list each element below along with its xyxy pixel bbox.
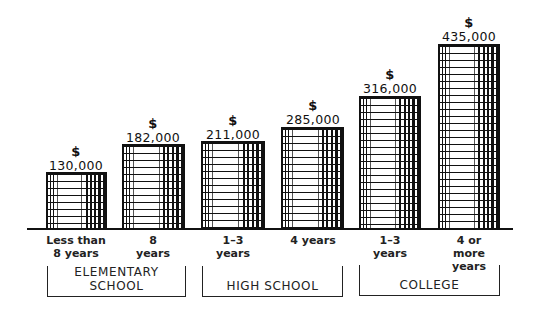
group-bracket-high-school: HIGH SCHOOL (202, 266, 343, 297)
bar-value: 285,000 (286, 112, 340, 127)
group-label-line: ELEMENTARY (48, 265, 185, 279)
bar-value: 435,000 (442, 29, 496, 44)
bar-less-than-8-years (46, 172, 107, 229)
category-label: 4 years (273, 234, 353, 247)
group-label: ELEMENTARY SCHOOL (48, 265, 185, 293)
category-label-line: years (350, 247, 430, 260)
category-label-line: 4 or (429, 234, 509, 247)
bar-value-label: $ 211,000 (193, 114, 273, 142)
bar-value: 211,000 (206, 127, 260, 142)
category-label-line: 1–3 (350, 234, 430, 247)
category-label-line: 8 (113, 234, 193, 247)
category-label: 1–3 years (193, 234, 273, 260)
bar-8-years (122, 144, 185, 229)
group-label: COLLEGE (360, 278, 499, 292)
bar-value: 182,000 (126, 130, 180, 145)
category-label-line: 8 years (36, 247, 116, 260)
category-label-line: 1–3 (193, 234, 273, 247)
category-label: 8 years (113, 234, 193, 260)
dollar-sign: $ (350, 68, 430, 82)
bar-college-4-or-more-years (438, 44, 500, 229)
bar-value-label: $ 316,000 (350, 68, 430, 96)
dollar-sign: $ (113, 117, 193, 131)
group-label: HIGH SCHOOL (203, 279, 342, 293)
group-label-line: SCHOOL (48, 279, 185, 293)
dollar-sign: $ (429, 16, 509, 30)
category-label: 1–3 years (350, 234, 430, 260)
category-label-line: more (429, 247, 509, 260)
bar-value: 130,000 (49, 158, 103, 173)
category-label-line: 4 years (273, 234, 353, 247)
bar-value-label: $ 285,000 (273, 99, 353, 127)
category-label-line: Less than (36, 234, 116, 247)
group-bracket-college: COLLEGE (359, 265, 500, 296)
lifetime-income-bar-chart: $ 130,000 $ 182,000 $ 211,000 $ 285,000 … (0, 0, 536, 311)
bar-value-label: $ 130,000 (36, 145, 116, 173)
dollar-sign: $ (273, 99, 353, 113)
bar-value-label: $ 182,000 (113, 117, 193, 145)
category-label: Less than 8 years (36, 234, 116, 260)
category-label-line: years (193, 247, 273, 260)
group-label-line: COLLEGE (360, 278, 499, 292)
bar-high-school-4-years (281, 127, 344, 229)
dollar-sign: $ (193, 114, 273, 128)
x-axis-baseline (27, 228, 513, 230)
group-label-line: HIGH SCHOOL (203, 279, 342, 293)
bar-college-1-3-years (359, 96, 421, 229)
category-label-line: years (113, 247, 193, 260)
bar-value: 316,000 (363, 81, 417, 96)
group-bracket-elementary-school: ELEMENTARY SCHOOL (47, 266, 186, 297)
bar-value-label: $ 435,000 (429, 16, 509, 44)
dollar-sign: $ (36, 145, 116, 159)
bar-high-school-1-3-years (201, 141, 265, 229)
